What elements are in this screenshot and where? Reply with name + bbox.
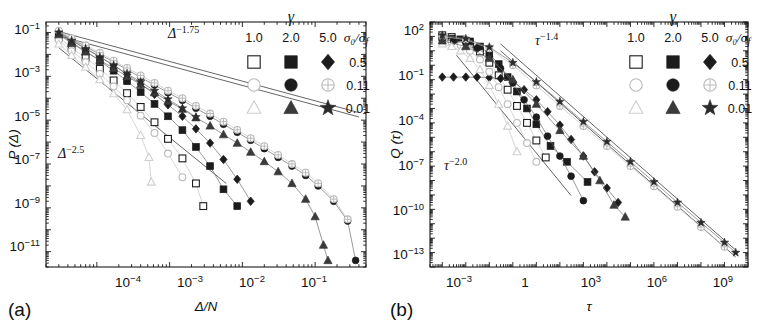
legend-row-label: 0.5 <box>349 56 366 70</box>
x-axis-title: Δ/N <box>194 299 218 314</box>
data-point-filled-star <box>702 100 718 115</box>
data-point-filled-star <box>731 248 739 256</box>
data-point-open-square <box>248 56 260 68</box>
legend-column-header: 1.0 <box>627 31 644 45</box>
data-point-filled-triangle <box>324 256 332 264</box>
data-point-filled-diamond <box>439 73 446 82</box>
data-point-open-triangle <box>147 178 155 185</box>
data-point-filled-circle <box>285 79 297 91</box>
data-point-filled-diamond <box>703 54 716 70</box>
data-point-open-square <box>193 180 200 187</box>
tick-label: 10−3 <box>14 63 40 80</box>
data-point-filled-triangle <box>219 130 227 138</box>
data-series <box>55 34 206 210</box>
tick-label: 10−5 <box>14 107 40 124</box>
data-series <box>439 73 622 207</box>
data-point-filled-square <box>220 186 227 193</box>
x-axis-title: τ <box>586 299 592 314</box>
data-point-open-square <box>200 203 207 210</box>
power-law-annotation: Δ−2.5 <box>57 144 84 161</box>
series-connector <box>442 77 618 202</box>
data-point-open-circle <box>248 79 260 91</box>
data-point-filled-circle <box>568 173 575 180</box>
data-series-group <box>438 31 740 256</box>
tick-label: 10−11 <box>10 237 40 254</box>
data-point-filled-triangle <box>247 148 255 156</box>
series-connector <box>442 36 724 246</box>
legend-row-label: 0.11 <box>346 79 369 93</box>
data-point-filled-diamond <box>321 54 334 70</box>
data-point-open-square <box>504 86 511 93</box>
data-point-filled-triangle <box>666 101 680 114</box>
legend-row-label: 0.11 <box>728 79 751 93</box>
data-point-filled-diamond <box>450 73 457 82</box>
data-point-filled-diamond <box>462 73 469 82</box>
data-point-filled-square <box>165 113 172 120</box>
data-point-filled-square <box>533 121 540 128</box>
power-law-annotation: Δ−1.75 <box>167 24 199 41</box>
tick-label: 10−1 <box>301 273 327 290</box>
data-point-filled-circle <box>533 114 540 121</box>
data-point-filled-square <box>151 101 158 108</box>
tick-label: 10−1 <box>398 66 424 83</box>
data-point-filled-circle <box>556 153 563 160</box>
data-point-open-circle <box>137 112 144 119</box>
power-law-guide <box>59 36 359 117</box>
data-point-filled-triangle <box>260 157 268 165</box>
data-point-open-circle <box>477 56 484 63</box>
data-point-open-square <box>151 119 158 126</box>
data-point-filled-square <box>285 56 297 68</box>
legend-row-label: 0.01 <box>346 102 370 116</box>
tick-label: 10−13 <box>393 245 424 262</box>
data-series <box>438 31 740 256</box>
data-point-open-circle <box>151 130 158 137</box>
figure-panel-b: 10−3110310610910210−110−410−710−1010−13τ… <box>382 0 764 327</box>
legend-column-header: 5.0 <box>319 31 336 45</box>
data-series <box>438 36 629 220</box>
tick-label: 10−1 <box>14 20 40 37</box>
legend: γ1.02.05.0σ₀/σf0.50.110.01 <box>627 8 752 116</box>
data-point-filled-diamond <box>179 112 186 121</box>
power-law-annotation: τ−1.4 <box>535 31 558 48</box>
data-point-open-square <box>514 103 521 110</box>
data-point-filled-circle <box>352 257 359 264</box>
tick-label: 10−9 <box>14 194 40 211</box>
tick-label: 10−4 <box>115 273 141 290</box>
tick-label: 109 <box>713 273 733 290</box>
data-point-open-circle <box>165 150 172 157</box>
data-point-filled-triangle <box>284 101 298 114</box>
data-point-filled-square <box>524 105 531 112</box>
data-point-open-square <box>165 135 172 142</box>
panel-b-tag: (b) <box>390 299 413 321</box>
data-point-filled-diamond <box>247 197 254 206</box>
data-point-open-circle <box>630 79 642 91</box>
data-point-filled-triangle <box>233 139 241 147</box>
panel-b-plot: 10−3110310610910210−110−410−710−1010−13τ… <box>382 0 764 327</box>
data-point-open-triangle <box>137 131 145 138</box>
legend-column-header: 1.0 <box>245 31 262 45</box>
data-point-open-triangle <box>466 54 474 61</box>
data-point-filled-square <box>234 203 241 210</box>
data-point-open-square <box>524 119 531 126</box>
legend-column-header: 2.0 <box>282 31 299 45</box>
data-point-filled-square <box>137 89 144 96</box>
data-point-open-circle <box>533 158 540 165</box>
legend-column-header: 2.0 <box>664 31 681 45</box>
y-axis-title: Q (τ) <box>388 130 403 158</box>
tick-label: 10−4 <box>398 111 424 128</box>
plot-frame <box>46 22 366 267</box>
data-point-filled-diamond <box>234 175 241 184</box>
tick-label: 106 <box>647 273 667 290</box>
guide-lines <box>59 32 359 184</box>
data-point-open-triangle <box>145 153 153 160</box>
data-point-open-triangle <box>485 81 493 88</box>
data-point-filled-circle <box>521 96 528 103</box>
x-tick-labels: 10−31103106109 <box>446 273 733 290</box>
data-point-open-square <box>124 90 131 97</box>
data-point-open-triangle <box>247 101 261 113</box>
data-point-open-square <box>542 154 549 161</box>
data-point-filled-triangle <box>319 241 327 249</box>
data-point-filled-triangle <box>274 167 282 175</box>
data-point-filled-triangle <box>596 176 604 184</box>
power-law-guide <box>456 55 571 195</box>
